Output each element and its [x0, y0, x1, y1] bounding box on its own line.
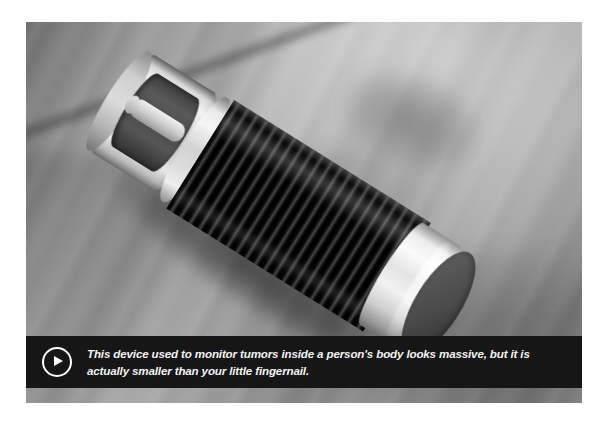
- play-circle-icon[interactable]: [42, 347, 72, 377]
- caption-bar[interactable]: This device used to monitor tumors insid…: [26, 336, 582, 388]
- caption-text: This device used to monitor tumors insid…: [87, 345, 539, 379]
- photo-frame: This device used to monitor tumors insid…: [0, 0, 608, 426]
